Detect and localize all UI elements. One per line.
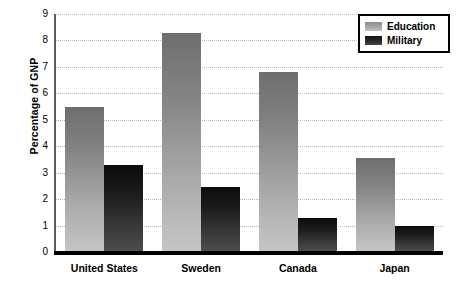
legend-item-label: Education xyxy=(387,21,435,32)
bar xyxy=(201,187,240,252)
y-axis-tick-label: 4 xyxy=(34,141,48,151)
legend-item: Education xyxy=(365,20,443,33)
y-axis-tick-label: 7 xyxy=(34,62,48,72)
gridline xyxy=(56,67,443,69)
x-axis-line xyxy=(54,251,443,255)
y-axis-tick-label: 5 xyxy=(34,115,48,125)
bar xyxy=(259,72,298,252)
bar xyxy=(395,226,434,252)
y-axis-title: Percentage of GNP xyxy=(28,36,40,176)
legend-item: Military xyxy=(365,34,443,47)
y-axis-tick-label: 6 xyxy=(34,88,48,98)
x-axis-category-label: Japan xyxy=(346,262,443,274)
military-swatch xyxy=(365,36,382,45)
bar xyxy=(356,158,395,252)
bar xyxy=(298,218,337,252)
y-axis-tick-label: 8 xyxy=(34,35,48,45)
x-axis-category-label: United States xyxy=(56,262,153,274)
gridline xyxy=(56,120,443,122)
bar xyxy=(65,107,104,252)
gridline xyxy=(56,93,443,95)
y-axis-tick-label: 3 xyxy=(34,168,48,178)
legend-item-label: Military xyxy=(387,35,422,46)
y-axis-tick-label: 1 xyxy=(34,221,48,231)
gridline xyxy=(56,146,443,148)
y-axis-tick-label: 0 xyxy=(34,247,48,257)
x-axis-category-label: Canada xyxy=(250,262,347,274)
bar-chart: Percentage of GNP 0123456789 United Stat… xyxy=(0,0,459,293)
y-axis-tick-label: 9 xyxy=(34,9,48,19)
bar xyxy=(104,165,143,252)
x-axis-category-label: Sweden xyxy=(153,262,250,274)
bar xyxy=(162,33,201,252)
education-swatch xyxy=(365,22,382,31)
legend: EducationMilitary xyxy=(358,14,450,53)
y-axis-tick-label: 2 xyxy=(34,194,48,204)
